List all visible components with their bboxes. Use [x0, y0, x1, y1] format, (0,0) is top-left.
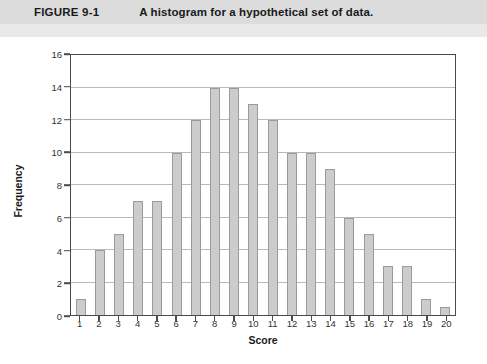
header-divider: [0, 24, 487, 37]
bar-slot: [397, 55, 416, 315]
x-tick-label: 5: [147, 318, 166, 329]
histogram-bar: [306, 153, 316, 316]
histogram-bar: [248, 104, 258, 315]
histogram-bar: [210, 88, 220, 316]
x-tick-label: 20: [437, 318, 456, 329]
bar-slot: [263, 55, 282, 315]
x-tick-label: 7: [186, 318, 205, 329]
bar-slot: [129, 55, 148, 315]
histogram-bar: [325, 169, 335, 315]
histogram-bar: [383, 266, 393, 315]
bar-slot: [417, 55, 436, 315]
y-tick-label: 4: [32, 245, 62, 256]
y-tick-label: 14: [32, 81, 62, 92]
histogram-bar: [268, 120, 278, 315]
histogram-bar: [152, 201, 162, 315]
x-tick-label: 12: [282, 318, 301, 329]
bars-container: [71, 55, 455, 315]
x-tick-label: 19: [417, 318, 436, 329]
figure-caption: A histogram for a hypothetical set of da…: [139, 6, 373, 18]
bar-slot: [167, 55, 186, 315]
x-tick-label: 16: [359, 318, 378, 329]
x-tick-label: 10: [244, 318, 263, 329]
y-tick-label: 2: [32, 278, 62, 289]
y-tick-label: 6: [32, 212, 62, 223]
bar-slot: [340, 55, 359, 315]
bar-slot: [359, 55, 378, 315]
figure-header-text-row: FIGURE 9-1 A histogram for a hypothetica…: [0, 0, 487, 24]
histogram-bar: [133, 201, 143, 315]
y-tick-label: 10: [32, 147, 62, 158]
histogram-bar: [440, 307, 450, 315]
histogram-bar: [287, 153, 297, 316]
plot-inner: [71, 55, 455, 315]
x-axis-tick-labels: 1234567891011121314151617181920: [70, 318, 456, 329]
x-tick-label: 4: [128, 318, 147, 329]
x-tick-label: 3: [109, 318, 128, 329]
x-tick-label: 17: [379, 318, 398, 329]
bar-slot: [436, 55, 455, 315]
histogram-chart: Frequency 0246810121416 1234567891011121…: [0, 37, 487, 364]
bar-slot: [109, 55, 128, 315]
y-axis-title: Frequency: [12, 164, 24, 217]
bar-slot: [321, 55, 340, 315]
y-tick-label: 16: [32, 49, 62, 60]
x-tick-label: 11: [263, 318, 282, 329]
x-tick-label: 2: [89, 318, 108, 329]
x-tick-label: 9: [224, 318, 243, 329]
x-axis-title: Score: [70, 334, 456, 346]
y-tick-label: 0: [32, 311, 62, 322]
histogram-bar: [191, 120, 201, 315]
figure-number: FIGURE 9-1: [34, 6, 99, 18]
histogram-bar: [421, 299, 431, 315]
y-tick-label: 8: [32, 180, 62, 191]
x-tick-label: 14: [321, 318, 340, 329]
bar-slot: [244, 55, 263, 315]
bar-slot: [205, 55, 224, 315]
histogram-bar: [364, 234, 374, 315]
figure-header-band: FIGURE 9-1 A histogram for a hypothetica…: [0, 0, 487, 37]
bar-slot: [378, 55, 397, 315]
plot-frame: [70, 54, 456, 316]
bar-slot: [90, 55, 109, 315]
histogram-bar: [114, 234, 124, 315]
histogram-bar: [344, 218, 354, 316]
histogram-bar: [402, 266, 412, 315]
bar-slot: [186, 55, 205, 315]
bar-slot: [71, 55, 90, 315]
bar-slot: [148, 55, 167, 315]
y-tick-label: 12: [32, 114, 62, 125]
x-tick-label: 13: [302, 318, 321, 329]
x-tick-label: 6: [166, 318, 185, 329]
histogram-bar: [95, 250, 105, 315]
bar-slot: [301, 55, 320, 315]
x-tick-label: 15: [340, 318, 359, 329]
x-tick-label: 18: [398, 318, 417, 329]
histogram-bar: [172, 153, 182, 316]
histogram-bar: [76, 299, 86, 315]
x-tick-label: 1: [70, 318, 89, 329]
x-tick-label: 8: [205, 318, 224, 329]
histogram-bar: [229, 88, 239, 316]
bar-slot: [282, 55, 301, 315]
bar-slot: [225, 55, 244, 315]
